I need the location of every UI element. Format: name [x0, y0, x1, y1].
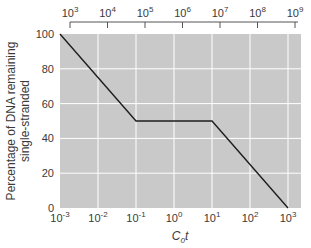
- y-tick-label: 80: [42, 63, 54, 75]
- y-tick-label: 100: [36, 28, 54, 40]
- bottom-tick-label: 10-2: [88, 210, 108, 224]
- y-tick-label: 20: [42, 167, 54, 179]
- x-axis-title-main: C: [172, 229, 181, 243]
- reassociation-chart: 103104105106107108109 10-310-210-1100101…: [0, 0, 311, 248]
- y-axis: 020406080100: [36, 28, 54, 214]
- y-axis-title-line1: Percentage of DNA remaining: [4, 42, 18, 201]
- bottom-tick-label: 103: [280, 210, 297, 224]
- y-axis-title-line2: single-stranded: [18, 80, 32, 162]
- y-tick-label: 60: [42, 98, 54, 110]
- bottom-tick-label: 102: [242, 210, 259, 224]
- top-tick-label: 105: [137, 5, 154, 19]
- top-axis: 103104105106107108109: [62, 5, 304, 28]
- y-tick-label: 0: [48, 202, 54, 214]
- x-axis-title-suffix: t: [185, 229, 189, 243]
- bottom-axis: 10-310-210-1100101102103: [50, 210, 297, 224]
- y-tick-label: 40: [42, 132, 54, 144]
- top-tick-label: 109: [287, 5, 304, 19]
- bottom-tick-label: 101: [204, 210, 221, 224]
- top-tick-label: 107: [212, 5, 229, 19]
- top-tick-label: 108: [249, 5, 266, 19]
- bottom-tick-label: 100: [166, 210, 183, 224]
- bottom-tick-label: 10-1: [126, 210, 146, 224]
- top-tick-label: 104: [99, 5, 116, 19]
- x-axis-title: C0t: [172, 229, 189, 245]
- top-tick-label: 103: [62, 5, 79, 19]
- top-tick-label: 106: [174, 5, 191, 19]
